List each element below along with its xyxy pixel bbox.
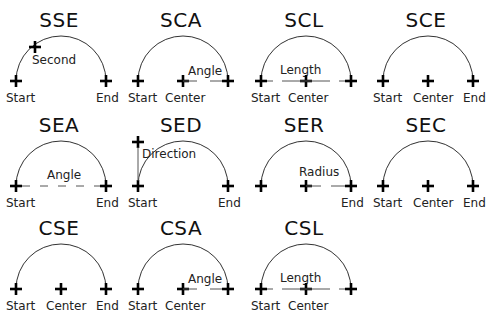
point-marker-icon xyxy=(132,283,144,295)
arc-curve xyxy=(138,244,228,289)
point-marker-icon xyxy=(377,75,389,87)
arc-method-cse: CSEStartCenterEnd xyxy=(0,208,122,313)
point-marker-icon xyxy=(100,180,112,192)
point-marker-icon xyxy=(345,180,357,192)
point-marker-icon xyxy=(255,75,267,87)
point-marker-icon xyxy=(10,283,22,295)
point-marker-icon xyxy=(467,75,479,87)
arc-method-csl: CSLStartCenterLength xyxy=(245,208,367,313)
arc-curve xyxy=(16,36,106,81)
arc-method-sea: SEAStartEndAngle xyxy=(0,105,122,210)
point-marker-icon xyxy=(422,75,434,87)
arc-method-csa: CSAStartCenterAngle xyxy=(122,208,244,313)
point-marker-icon xyxy=(255,283,267,295)
arc-curve xyxy=(261,36,351,81)
point-marker-icon xyxy=(100,75,112,87)
point-marker-icon xyxy=(132,75,144,87)
point-marker-icon xyxy=(132,136,144,148)
arc-method-ser: SEREndRadius xyxy=(245,105,367,210)
point-marker-icon xyxy=(132,180,144,192)
point-marker-icon xyxy=(100,283,112,295)
arc-curve xyxy=(16,141,106,186)
point-marker-icon xyxy=(345,75,357,87)
arc-method-sce: SCEStartCenterEnd xyxy=(367,0,489,105)
point-marker-icon xyxy=(222,180,234,192)
arc-method-sca: SCAStartCenterAngle xyxy=(122,0,244,105)
point-marker-icon xyxy=(10,180,22,192)
arc-curve xyxy=(383,36,473,81)
arc-curve xyxy=(261,244,351,289)
point-marker-icon xyxy=(422,180,434,192)
point-marker-icon xyxy=(467,180,479,192)
arc-method-sec: SECStartCenterEnd xyxy=(367,105,489,210)
point-marker-icon xyxy=(255,180,267,192)
arc-curve xyxy=(138,36,228,81)
point-marker-icon xyxy=(222,75,234,87)
arc-method-scl: SCLStartCenterLength xyxy=(245,0,367,105)
arc-curve xyxy=(383,141,473,186)
point-marker-icon xyxy=(55,283,67,295)
point-marker-icon xyxy=(345,283,357,295)
point-marker-icon xyxy=(10,75,22,87)
arc-curve xyxy=(261,141,351,186)
point-marker-icon xyxy=(222,283,234,295)
arc-method-sed: SEDStartEndDirection xyxy=(122,105,244,210)
arc-method-sse: SSEStartEndSecond xyxy=(0,0,122,105)
arc-curve xyxy=(138,141,228,186)
point-marker-icon xyxy=(377,180,389,192)
arc-curve xyxy=(16,244,106,289)
point-marker-icon xyxy=(29,41,41,53)
